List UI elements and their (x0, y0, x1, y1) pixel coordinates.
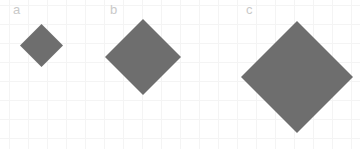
diamond-shape-a (20, 24, 63, 67)
diamond-icon (241, 21, 353, 133)
panel-label-b: b (110, 3, 117, 16)
diamond-icon (20, 24, 63, 67)
diamond-shape-b (105, 19, 181, 95)
panel-label-c: c (246, 3, 253, 16)
panel-label-a: a (13, 3, 20, 16)
diamond-icon (105, 19, 181, 95)
diamond-shape-c (241, 21, 353, 133)
figure-canvas: a b c (0, 0, 360, 149)
